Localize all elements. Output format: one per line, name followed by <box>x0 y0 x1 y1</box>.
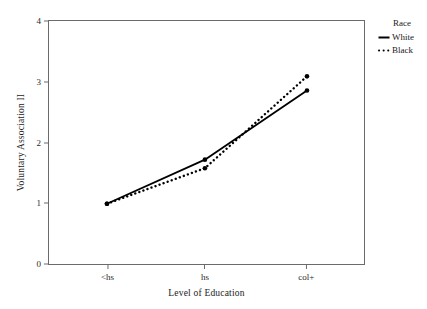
legend-item-label: White <box>392 32 414 43</box>
y-axis-tick-label: 0 <box>37 260 45 269</box>
legend-title: Race <box>378 18 426 29</box>
y-axis-tick-label: 2 <box>37 138 45 147</box>
solid-line-icon <box>378 33 390 42</box>
x-axis-tick: <hs <box>101 264 114 282</box>
data-point-black <box>105 201 110 206</box>
data-point-white <box>305 88 310 93</box>
x-axis-tick: hs <box>201 264 209 282</box>
x-axis-tick-label: col+ <box>298 273 314 282</box>
x-axis-tick-label: hs <box>201 273 209 282</box>
y-axis-tick-label: 1 <box>37 199 45 208</box>
series-line-white <box>107 90 307 203</box>
data-series-layer <box>48 20 365 265</box>
series-line-black <box>107 76 307 203</box>
y-axis-tick-label: 4 <box>37 17 45 26</box>
x-axis-tick-label: <hs <box>101 273 114 282</box>
y-axis-title: Voluntary Association II <box>14 20 28 265</box>
x-axis-tick: col+ <box>298 264 314 282</box>
dotted-line-icon <box>378 46 390 55</box>
legend-item-white[interactable]: White <box>378 32 426 43</box>
line-chart-figure: 4 3 2 1 0 <hs hs col+ <box>0 0 427 309</box>
legend-item-label: Black <box>392 45 413 56</box>
data-point-black <box>203 166 208 171</box>
data-point-black <box>305 74 310 79</box>
legend: Race White Black <box>378 18 426 58</box>
data-point-white <box>203 157 208 162</box>
y-axis-tick-label: 3 <box>37 77 45 86</box>
x-axis-title: Level of Education <box>48 288 365 299</box>
legend-item-black[interactable]: Black <box>378 45 426 56</box>
